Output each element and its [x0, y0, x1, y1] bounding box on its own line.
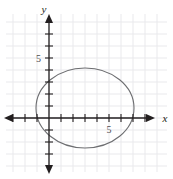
x-axis-tick-label-5: 5 — [107, 124, 112, 135]
graph-canvas: 5 5 y x — [0, 0, 173, 179]
x-axis-label: x — [162, 112, 168, 124]
coordinate-plane-figure: 5 5 y x — [0, 0, 173, 179]
figure-background — [0, 0, 173, 179]
y-axis-label: y — [41, 3, 47, 15]
y-axis-tick-label-5: 5 — [36, 53, 41, 64]
